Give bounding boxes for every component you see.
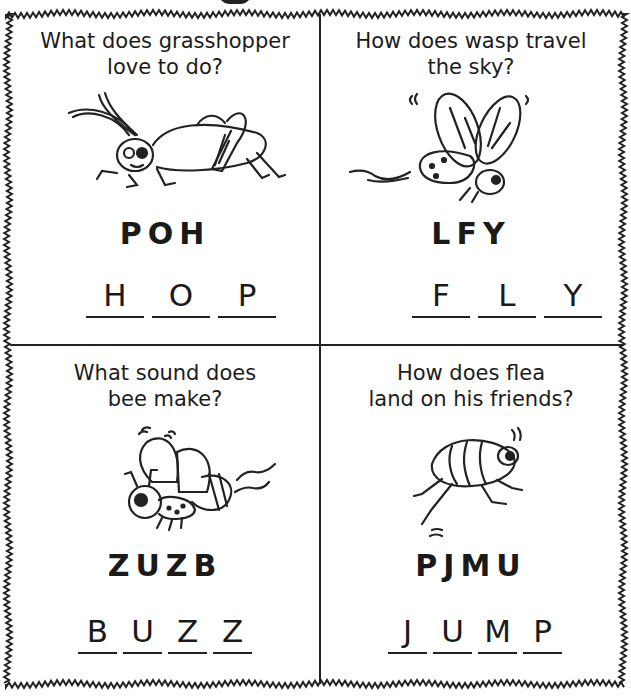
scrambled-word: LFY (322, 216, 620, 251)
answer-letter[interactable]: M (478, 612, 517, 654)
wasp-illustration (340, 88, 540, 203)
answer-letter[interactable]: J (388, 612, 427, 654)
scrambled-word: ZUZB (12, 548, 318, 583)
question-line: love to do? (12, 54, 318, 80)
question-text: How does wasp travel the sky? (322, 28, 620, 80)
answer-letter[interactable]: H (86, 276, 144, 318)
answer-letter[interactable]: O (152, 276, 210, 318)
flea-illustration (412, 424, 542, 544)
answer-letter[interactable]: F (412, 276, 470, 318)
question-line: What does grasshopper (12, 28, 318, 54)
question-line: How does wasp travel (322, 28, 620, 54)
answer-letter[interactable]: P (523, 612, 562, 654)
answer-letter[interactable]: P (218, 276, 276, 318)
question-line: bee make? (12, 386, 318, 412)
puzzle-card-wasp: How does wasp travel the sky? LFY F L Y (322, 28, 620, 343)
question-text: How does flea land on his friends? (322, 360, 620, 412)
answer-letter[interactable]: L (478, 276, 536, 318)
answer-slots: J U M P (322, 612, 620, 654)
question-text: What does grasshopper love to do? (12, 28, 318, 80)
question-text: What sound does bee make? (12, 360, 318, 412)
answer-letter[interactable]: U (433, 612, 472, 654)
question-line: land on his friends? (322, 386, 620, 412)
puzzle-card-flea: How does flea land on his friends? PJMU … (322, 360, 620, 680)
scrambled-word: PJMU (322, 548, 620, 583)
answer-letter[interactable]: Y (544, 276, 602, 318)
answer-letter[interactable]: Z (168, 612, 207, 654)
bee-illustration (107, 422, 277, 532)
question-line: the sky? (322, 54, 620, 80)
answer-slots: F L Y (322, 276, 620, 318)
grasshopper-illustration (57, 83, 287, 193)
answer-slots: H O P (12, 276, 318, 318)
answer-slots: B U Z Z (12, 612, 318, 654)
answer-letter[interactable]: U (123, 612, 162, 654)
puzzle-card-grasshopper: What does grasshopper love to do? POH H … (12, 28, 318, 343)
answer-letter[interactable]: Z (213, 612, 252, 654)
question-line: How does flea (322, 360, 620, 386)
scrambled-word: POH (12, 216, 318, 251)
question-line: What sound does (12, 360, 318, 386)
answer-letter[interactable]: B (78, 612, 117, 654)
puzzle-card-bee: What sound does bee make? ZUZB B U Z Z (12, 360, 318, 680)
